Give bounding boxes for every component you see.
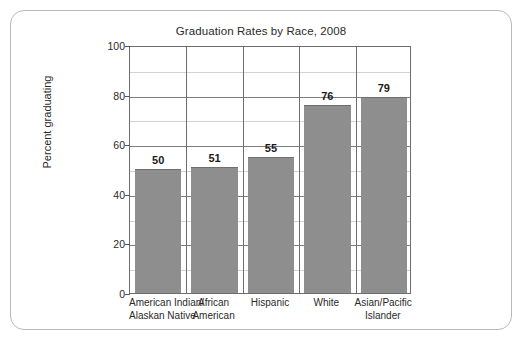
x-tick-label-1: AfricanAmerican [185,297,241,322]
bar-slot: 55 [248,47,294,293]
y-tick-mark-80 [125,96,130,97]
x-tick-label-line: African [185,297,241,310]
y-tick-mark-100 [125,46,130,47]
bar[interactable] [135,169,181,293]
bar-value-label: 51 [191,152,237,164]
bar-slot: 76 [304,47,350,293]
bar-slot: 50 [135,47,181,293]
y-axis-title: Percent graduating [41,62,53,182]
bar-value-label: 50 [135,154,181,166]
x-tick-label-line: Asian/Pacific [355,297,411,310]
bar[interactable] [304,105,350,293]
x-tick-label-4: Asian/PacificIslander [355,297,411,322]
bar-value-label: 76 [304,90,350,102]
y-tick-mark-40 [125,195,130,196]
y-axis-tick-labels: 020406080100 [89,46,125,294]
chart-title: Graduation Rates by Race, 2008 [11,25,511,37]
y-tick-label-100: 100 [91,40,125,52]
bar[interactable] [191,167,237,293]
y-tick-label-0: 0 [91,288,125,300]
x-axis-tick-labels: American Indian/Alaskan NativeAfricanAme… [129,297,411,333]
bar[interactable] [248,157,294,293]
y-tick-mark-20 [125,244,130,245]
y-tick-label-40: 40 [91,189,125,201]
x-tick-label-line: Islander [355,310,411,323]
x-tick-label-3: White [298,297,354,310]
chart-card: Graduation Rates by Race, 2008 Percent g… [10,10,512,330]
x-tick-label-0: American Indian/Alaskan Native [129,297,185,322]
y-tick-label-20: 20 [91,238,125,250]
x-tick-label-line: Hispanic [242,297,298,310]
x-tick-label-line: American Indian/ [129,297,185,310]
x-tick-label-line: American [185,310,241,323]
bar-slot: 51 [191,47,237,293]
x-tick-label-line: Alaskan Native [129,310,185,323]
bar[interactable] [361,97,407,293]
y-tick-mark-60 [125,145,130,146]
plot-area: 5051557679 [129,46,411,294]
bar-value-label: 55 [248,142,294,154]
bar-slot: 79 [361,47,407,293]
bars-layer: 5051557679 [130,47,410,293]
x-tick-label-2: Hispanic [242,297,298,310]
x-tick-label-line: White [298,297,354,310]
y-tick-mark-0 [125,294,130,295]
y-tick-label-80: 80 [91,90,125,102]
bar-value-label: 79 [361,82,407,94]
y-tick-label-60: 60 [91,139,125,151]
